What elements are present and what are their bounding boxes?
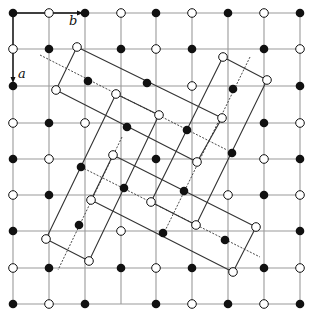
- displaced-atom-filled: [180, 187, 189, 196]
- displaced-atom-open: [85, 257, 94, 266]
- lattice-atom-filled: [224, 300, 233, 309]
- lattice-atom-open: [188, 9, 197, 18]
- lattice-atom-open: [152, 264, 161, 273]
- lattice-atom-open: [260, 9, 269, 18]
- lattice-atom-open: [260, 155, 269, 164]
- displaced-atom-open: [52, 86, 61, 95]
- atom-sites: [9, 9, 305, 309]
- displaced-atom-open: [229, 268, 238, 277]
- lattice-atom-filled: [45, 191, 54, 200]
- lattice-atom-open: [9, 191, 18, 200]
- lattice-atom-filled: [260, 264, 269, 273]
- displaced-atom-filled: [229, 85, 238, 94]
- lattice-atom-filled: [9, 155, 18, 164]
- lattice-atom-open: [117, 9, 126, 18]
- lattice-atom-open: [9, 264, 18, 273]
- lattice-atom-open: [188, 300, 197, 309]
- lattice-atom-filled: [9, 9, 18, 18]
- unit-cell-rectangle: [56, 47, 222, 162]
- displaced-atom-filled: [143, 79, 152, 88]
- displaced-atom-filled: [84, 77, 93, 86]
- displaced-atom-open: [42, 235, 51, 244]
- lattice-atom-filled: [188, 45, 197, 54]
- displaced-atom-filled: [77, 163, 86, 172]
- displaced-atom-open: [193, 158, 202, 167]
- lattice-atom-filled: [260, 191, 269, 200]
- lattice-atom-filled: [9, 82, 18, 91]
- displaced-atom-open: [87, 196, 96, 205]
- lattice-atom-filled: [296, 9, 305, 18]
- lattice-atom-filled: [188, 264, 197, 273]
- displaced-atom-open: [252, 223, 261, 232]
- lattice-atom-filled: [152, 155, 161, 164]
- lattice-atom-open: [9, 119, 18, 128]
- lattice-atom-filled: [260, 119, 269, 128]
- displaced-atom-open: [73, 43, 82, 52]
- lattice-atom-filled: [224, 9, 233, 18]
- displaced-atom-open: [109, 151, 118, 160]
- lattice-atom-open: [260, 300, 269, 309]
- lattice-atom-open: [9, 45, 18, 54]
- lattice-atom-open: [45, 155, 54, 164]
- displaced-atom-open: [155, 111, 164, 120]
- lattice-atom-filled: [81, 300, 90, 309]
- crystal-lattice-diagram: [0, 0, 311, 320]
- lattice-atom-filled: [117, 264, 126, 273]
- displaced-atom-open: [219, 53, 228, 62]
- lattice-atom-filled: [45, 119, 54, 128]
- lattice-atom-open: [188, 82, 197, 91]
- lattice-atom-filled: [45, 45, 54, 54]
- displaced-atom-open: [192, 221, 201, 230]
- lattice-atom-open: [45, 9, 54, 18]
- lattice-atom-open: [152, 45, 161, 54]
- displaced-atom-filled: [120, 184, 129, 193]
- lattice-atom-filled: [296, 82, 305, 91]
- lattice-atom-filled: [152, 9, 161, 18]
- lattice-atom-filled: [296, 300, 305, 309]
- displaced-atom-open: [218, 114, 227, 123]
- displaced-atom-filled: [159, 229, 168, 238]
- displaced-atom-open: [147, 198, 156, 207]
- displaced-atom-open: [112, 90, 121, 99]
- lattice-atom-filled: [81, 9, 90, 18]
- lattice-atom-open: [45, 300, 54, 309]
- lattice-atom-filled: [9, 227, 18, 236]
- lattice-atom-filled: [260, 45, 269, 54]
- lattice-atom-open: [224, 191, 233, 200]
- lattice-atom-filled: [296, 155, 305, 164]
- lattice-atom-open: [296, 264, 305, 273]
- lattice-atom-open: [296, 191, 305, 200]
- lattice-atom-open: [296, 119, 305, 128]
- displaced-atom-filled: [228, 149, 237, 158]
- lattice-atom-filled: [9, 300, 18, 309]
- lattice-atom-filled: [296, 227, 305, 236]
- lattice-atom-filled: [117, 45, 126, 54]
- displaced-atom-filled: [183, 126, 192, 135]
- lattice-atom-filled: [152, 300, 161, 309]
- lattice-atom-open: [81, 119, 90, 128]
- axis-label-a: a: [18, 66, 26, 81]
- lattice-atom-open: [117, 227, 126, 236]
- displaced-atom-filled: [221, 236, 230, 245]
- displaced-atom-filled: [123, 123, 132, 132]
- displaced-atom-open: [263, 76, 272, 85]
- lattice-atom-open: [296, 45, 305, 54]
- axis-label-b: b: [69, 13, 77, 28]
- displaced-atom-filled: [75, 221, 84, 230]
- lattice-atom-filled: [45, 264, 54, 273]
